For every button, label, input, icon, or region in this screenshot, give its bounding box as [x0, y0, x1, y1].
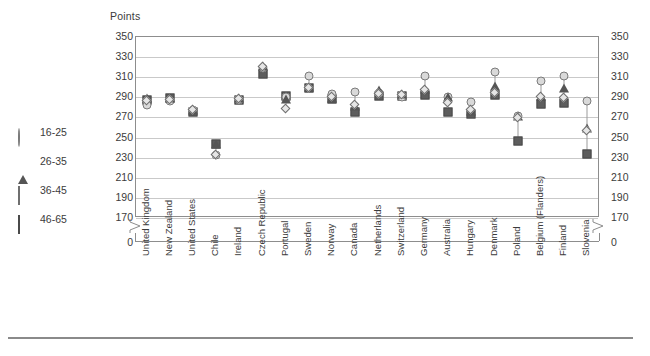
triangle-marker-icon	[559, 84, 569, 93]
x-axis-tick-label: United States	[186, 199, 197, 256]
chart-page: Points 350330310290270250230210190170350…	[0, 0, 650, 356]
data-point-diamond[interactable]	[421, 86, 428, 93]
legend-label: 16-25	[40, 126, 67, 138]
legend-item-26-35[interactable]: 26-35	[12, 154, 122, 183]
data-point-diamond[interactable]	[305, 84, 312, 91]
y-axis-tick-label: 310	[103, 71, 133, 81]
data-point-square[interactable]	[444, 108, 453, 117]
data-point-diamond[interactable]	[166, 96, 173, 103]
diamond-marker-icon	[304, 83, 314, 93]
data-point-circle[interactable]	[351, 88, 360, 97]
data-point-diamond[interactable]	[235, 95, 242, 102]
legend-item-36-45[interactable]: 36-45	[12, 183, 122, 212]
data-point-circle[interactable]	[421, 72, 430, 81]
diamond-marker-icon	[280, 104, 290, 114]
gridline	[136, 178, 598, 179]
circle-marker-icon	[560, 72, 569, 81]
square-marker-icon	[444, 108, 453, 117]
data-point-diamond[interactable]	[583, 127, 590, 134]
data-point-diamond[interactable]	[444, 99, 451, 106]
legend-item-16-25[interactable]: 16-25	[12, 125, 122, 154]
diamond-marker-icon	[164, 95, 174, 105]
data-point-diamond[interactable]	[282, 105, 289, 112]
x-axis-tick-label: Finland	[557, 225, 568, 256]
gridline	[136, 218, 598, 219]
data-point-triangle[interactable]	[211, 139, 221, 148]
data-point-square[interactable]	[513, 136, 522, 145]
square-marker-icon	[513, 136, 522, 145]
y-axis-tick-label: 270	[103, 111, 133, 121]
data-point-diamond[interactable]	[537, 93, 544, 100]
data-point-diamond[interactable]	[328, 93, 335, 100]
diamond-marker-icon	[350, 100, 360, 110]
data-point-circle[interactable]	[490, 68, 499, 77]
y-axis-title: Points	[110, 10, 140, 22]
data-point-diamond[interactable]	[351, 101, 358, 108]
y-axis-tick-label: 250	[611, 132, 641, 142]
triangle-marker-icon	[18, 158, 28, 176]
data-point-triangle[interactable]	[281, 95, 291, 104]
data-point-circle[interactable]	[537, 77, 546, 86]
data-point-circle[interactable]	[583, 97, 592, 106]
y-axis-tick-label: 230	[611, 152, 641, 162]
x-axis-tick-label: Czech Republic	[256, 189, 267, 256]
x-axis-tick-label: Portugal	[279, 221, 290, 256]
plot-area	[135, 36, 599, 217]
data-point-square[interactable]	[537, 100, 546, 109]
diamond-marker-icon	[373, 89, 383, 99]
x-axis-tick-label: Hungary	[464, 220, 475, 256]
x-axis-tick-label: Norway	[325, 224, 336, 256]
data-point-circle[interactable]	[560, 72, 569, 81]
diamond-marker-icon	[211, 149, 221, 159]
diamond-marker-icon	[536, 92, 546, 102]
legend-item-46-65[interactable]: 46-65	[12, 212, 122, 241]
data-point-diamond[interactable]	[398, 91, 405, 98]
axis-stub	[135, 233, 136, 241]
x-axis-baseline	[135, 241, 599, 242]
chart-legend: 16-25 26-35 36-45 46-65	[12, 125, 122, 241]
data-point-diamond[interactable]	[189, 106, 196, 113]
y-axis-tick-label: 170	[611, 212, 641, 222]
y-axis-tick-label: 290	[611, 91, 641, 101]
diamond-marker-icon	[559, 93, 569, 103]
circle-marker-icon	[537, 77, 546, 86]
y-axis-tick-label: 350	[611, 31, 641, 41]
gridline	[136, 198, 598, 199]
x-axis-tick-label: Belgium (Flanders)	[534, 176, 545, 256]
x-axis-tick-label: Canada	[348, 223, 359, 256]
axis-stub	[599, 233, 600, 241]
diamond-marker-icon	[18, 187, 20, 205]
data-point-diamond[interactable]	[560, 94, 567, 101]
data-point-diamond[interactable]	[467, 106, 474, 113]
data-point-diamond[interactable]	[143, 97, 150, 104]
diamond-marker-icon	[396, 90, 406, 100]
y-axis-tick-label: 350	[103, 31, 133, 41]
data-point-triangle[interactable]	[559, 84, 569, 93]
triangle-marker-icon	[281, 95, 291, 104]
x-axis-tick-label: Ireland	[232, 227, 243, 256]
gridline	[136, 158, 598, 159]
footer-rule	[8, 337, 633, 339]
diamond-marker-icon	[188, 105, 198, 115]
square-marker-icon	[537, 100, 546, 109]
circle-marker-icon	[421, 72, 430, 81]
data-point-diamond[interactable]	[491, 89, 498, 96]
diamond-marker-icon	[582, 125, 592, 135]
data-point-square[interactable]	[583, 149, 592, 158]
gridline	[136, 97, 598, 98]
data-point-diamond[interactable]	[259, 63, 266, 70]
x-axis-tick-label: Germany	[418, 217, 429, 256]
diamond-marker-icon	[420, 85, 430, 95]
data-point-diamond[interactable]	[514, 114, 521, 121]
data-point-circle[interactable]	[305, 72, 314, 81]
diamond-marker-icon	[141, 96, 151, 106]
y-axis-tick-label: 310	[611, 71, 641, 81]
data-point-diamond[interactable]	[375, 90, 382, 97]
x-axis-tick-label: Poland	[511, 226, 522, 256]
data-point-diamond[interactable]	[212, 151, 219, 158]
legend-label: 26-35	[40, 155, 67, 167]
circle-marker-icon	[351, 88, 360, 97]
x-axis-tick-label: Denmark	[488, 217, 499, 256]
axis-break-icon	[592, 218, 606, 234]
y-axis-tick-label: 190	[611, 192, 641, 202]
